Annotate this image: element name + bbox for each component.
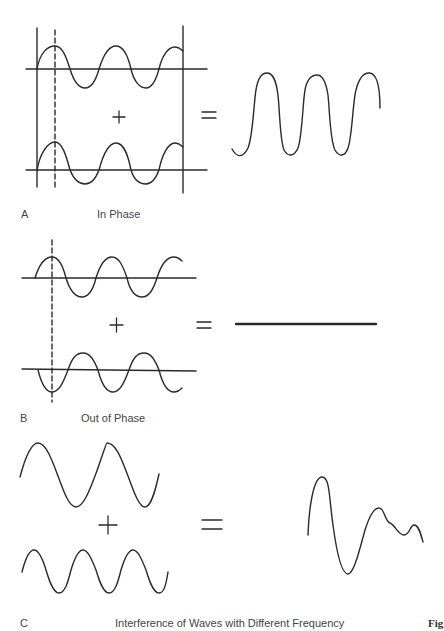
panel-a-letter: A	[21, 208, 28, 220]
panel-b-caption: Out of Phase	[81, 412, 145, 424]
panel-c-letter: C	[20, 617, 28, 629]
panel-b-bottom-axis	[22, 369, 196, 371]
panel-a-caption: In Phase	[97, 208, 140, 220]
figure-tag: Fig	[428, 617, 443, 629]
panel-c-wave-low-frequency	[20, 443, 159, 507]
panel-b	[22, 240, 376, 402]
panel-c-wave-high-frequency	[22, 550, 168, 593]
operators	[99, 111, 222, 534]
panel-a	[26, 26, 380, 193]
panel-b-letter: B	[20, 412, 27, 424]
panel-c-caption: Interference of Waves with Different Fre…	[115, 617, 344, 629]
panel-a-bottom-wave	[37, 142, 183, 184]
panel-c	[20, 443, 423, 593]
panel-b-top-wave	[35, 257, 182, 297]
panel-a-top-wave	[37, 46, 183, 88]
panel-a-result-wave	[232, 73, 380, 156]
panel-b-bottom-wave	[38, 353, 182, 392]
wave-interference-diagram	[0, 0, 444, 631]
panel-c-result-complex-wave	[308, 477, 423, 574]
